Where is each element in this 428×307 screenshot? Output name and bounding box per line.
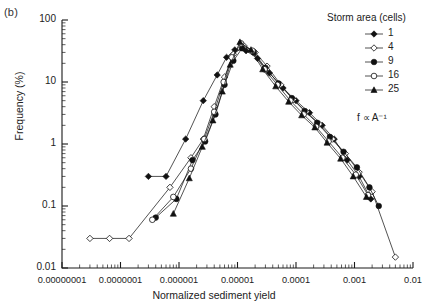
series-1 [145, 47, 374, 202]
legend-entry-4 [365, 45, 383, 51]
data-series-group [87, 39, 399, 260]
legend-entry-16 [365, 73, 383, 79]
x-tick-label: 0.01 [343, 275, 428, 285]
y-tick-label: 0.1 [10, 199, 56, 210]
legend-entry-label-9: 9 [388, 55, 394, 66]
y-tick-label: 100 [10, 13, 56, 24]
legend-markers [365, 31, 383, 93]
legend-entry-label-16: 16 [388, 69, 399, 80]
y-tick-label: 0.01 [10, 261, 56, 272]
legend-entry-label-25: 25 [388, 83, 399, 94]
legend-entry-25 [365, 87, 383, 93]
legend-entry-9 [365, 59, 383, 65]
y-tick-label: 1 [10, 137, 56, 148]
legend-entry-1 [365, 31, 383, 37]
axes [62, 20, 413, 268]
series-16 [150, 41, 371, 223]
series-4 [87, 43, 399, 260]
legend-annotation: f ∝ A⁻¹ [357, 112, 387, 123]
legend-entry-label-4: 4 [388, 41, 394, 52]
y-tick-label: 10 [10, 75, 56, 86]
figure-panel-b: (b) Frequency (%) Normalized sediment yi… [0, 0, 428, 307]
legend-title: Storm area (cells) [327, 12, 406, 23]
legend-entry-label-1: 1 [388, 27, 394, 38]
chart-plot-area [0, 0, 428, 307]
